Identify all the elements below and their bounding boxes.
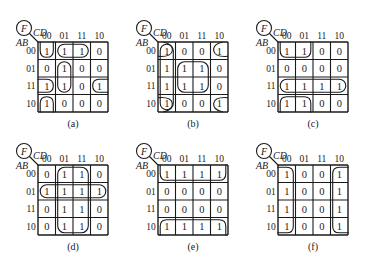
col-header: 10 [95, 154, 105, 164]
cell-value: 1 [62, 221, 67, 232]
col-header: 10 [215, 154, 225, 164]
cell-value: 0 [319, 204, 324, 215]
kmap-d: FCDAB00011110000111100110111101100110(d) [10, 133, 132, 265]
cell-value: 0 [44, 169, 49, 180]
cell-value: 0 [302, 63, 307, 74]
cell-value: 1 [319, 81, 324, 92]
cell-value: 1 [284, 186, 289, 197]
col-header: 00 [42, 31, 52, 41]
cell-value: 1 [337, 221, 342, 232]
cell-value: 1 [199, 221, 204, 232]
row-header: 00 [266, 169, 276, 179]
col-header: 11 [77, 31, 86, 41]
kmap-grid: FCDAB00011110000111101111000000001111 [130, 133, 252, 255]
cell-value: 1 [62, 186, 67, 197]
cell-value: 0 [44, 221, 49, 232]
cell-value: 0 [319, 46, 324, 57]
row-header: 01 [146, 187, 156, 197]
cell-value: 1 [337, 186, 342, 197]
kmap-e: FCDAB00011110000111101111000000001111(e) [130, 133, 252, 265]
kmap-caption: (e) [173, 241, 213, 252]
cell-value: 0 [319, 221, 324, 232]
cell-value: 1 [199, 81, 204, 92]
cell-value: 1 [79, 204, 84, 215]
cell-value: 1 [62, 46, 67, 57]
col-header: 11 [77, 154, 86, 164]
kmap-grid: FCDAB00011110000111101001111011101001 [130, 10, 252, 132]
cell-value: 1 [284, 204, 289, 215]
col-header: 10 [95, 31, 105, 41]
cell-value: 1 [44, 98, 49, 109]
row-header: 11 [26, 81, 35, 91]
row-header: 01 [26, 187, 36, 197]
cell-value: 1 [62, 63, 67, 74]
col-header: 00 [42, 154, 52, 164]
cell-value: 1 [164, 98, 169, 109]
col-header: 01 [180, 154, 190, 164]
cell-value: 0 [97, 204, 102, 215]
cell-value: 1 [164, 169, 169, 180]
cell-value: 0 [217, 186, 222, 197]
col-header: 00 [282, 154, 292, 164]
cell-value: 0 [199, 186, 204, 197]
cell-value: 1 [44, 186, 49, 197]
cell-value: 1 [164, 221, 169, 232]
col-header: 11 [317, 154, 326, 164]
cell-value: 0 [302, 186, 307, 197]
cell-value: 0 [302, 169, 307, 180]
cell-value: 0 [302, 221, 307, 232]
kmap-caption: (b) [173, 118, 213, 129]
kmap-caption: (a) [53, 118, 93, 129]
row-header: 00 [26, 169, 36, 179]
row-header: 10 [26, 99, 36, 109]
cell-value: 1 [44, 46, 49, 57]
col-header: 10 [335, 31, 345, 41]
row-header: 11 [146, 81, 155, 91]
row-header: 11 [146, 204, 155, 214]
cell-value: 1 [284, 46, 289, 57]
cell-value: 1 [79, 169, 84, 180]
cell-value: 0 [44, 204, 49, 215]
function-label: F [260, 146, 268, 157]
cell-value: 0 [97, 63, 102, 74]
function-label: F [20, 23, 28, 34]
cell-value: 0 [164, 186, 169, 197]
row-header: 01 [266, 64, 276, 74]
col-header: 00 [162, 154, 172, 164]
cell-value: 0 [79, 63, 84, 74]
cell-value: 1 [302, 46, 307, 57]
row-header: 10 [266, 99, 276, 109]
row-header: 00 [266, 46, 276, 56]
kmap-b: FCDAB00011110000111101001111011101001(b) [130, 10, 252, 142]
cell-value: 0 [337, 46, 342, 57]
row-header: 10 [266, 222, 276, 232]
cell-value: 0 [97, 98, 102, 109]
function-label: F [140, 23, 148, 34]
kmap-f: FCDAB00011110000111101001100110011001(f) [250, 133, 367, 265]
cell-value: 1 [79, 46, 84, 57]
cell-value: 1 [62, 81, 67, 92]
cell-value: 1 [302, 98, 307, 109]
row-header: 00 [26, 46, 36, 56]
kmap-a: FCDAB00011110000111101110010011011000(a) [10, 10, 132, 142]
cell-value: 1 [164, 63, 169, 74]
row-header: 10 [26, 222, 36, 232]
cell-value: 1 [62, 169, 67, 180]
col-header: 00 [282, 31, 292, 41]
cell-value: 0 [79, 98, 84, 109]
cell-value: 0 [182, 204, 187, 215]
row-header: 11 [266, 204, 275, 214]
row-header: 01 [266, 187, 276, 197]
row-header: 10 [146, 99, 156, 109]
function-label: F [140, 146, 148, 157]
cell-value: 0 [97, 221, 102, 232]
cell-value: 1 [79, 186, 84, 197]
cell-value: 1 [217, 221, 222, 232]
cell-value: 1 [302, 81, 307, 92]
row-header: 00 [146, 46, 156, 56]
cell-value: 1 [182, 81, 187, 92]
cell-value: 1 [62, 204, 67, 215]
cell-value: 1 [97, 186, 102, 197]
cell-value: 1 [44, 81, 49, 92]
row-header: 00 [146, 169, 156, 179]
